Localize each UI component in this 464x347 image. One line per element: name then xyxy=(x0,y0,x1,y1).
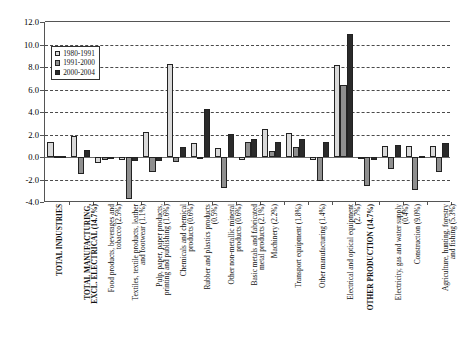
y-axis-tick-label: 2.0 xyxy=(0,131,39,139)
bar xyxy=(167,64,173,157)
bar-group xyxy=(310,22,329,201)
x-axis-label-line: Electrical and optical equipment xyxy=(347,204,354,344)
bar xyxy=(78,157,84,174)
bar-series-container xyxy=(45,22,450,201)
bar xyxy=(419,156,425,158)
legend-swatch-icon xyxy=(55,60,60,65)
x-axis-label: Electrical and optical equipment(2.7%) xyxy=(347,204,361,344)
x-axis-label-line: EXCL. ELECTRICAL (14.7%) xyxy=(92,204,99,344)
bar-group xyxy=(286,22,305,201)
x-axis-label: Rubber and plastics products(0.5%) xyxy=(204,204,218,344)
bar xyxy=(119,157,125,160)
x-axis-label: Electricity, gas and water supply(0.4%) xyxy=(395,204,409,344)
y-axis-tick-label: 0.0 xyxy=(0,153,39,161)
bar-group xyxy=(334,22,353,201)
bar xyxy=(269,151,275,157)
plot-area xyxy=(44,22,450,202)
bar xyxy=(132,157,138,161)
bar xyxy=(395,145,401,157)
bar xyxy=(340,85,346,157)
bar xyxy=(293,147,299,157)
bar-group xyxy=(167,22,186,201)
x-axis-label-line: Machinery (2.2%) xyxy=(271,204,278,344)
bar xyxy=(286,133,292,157)
bar xyxy=(347,34,353,157)
y-axis-tick-label: -4.0 xyxy=(0,198,39,206)
bar xyxy=(221,157,227,188)
chart-legend: 1980-1991 1991-2000 2000-2004 xyxy=(51,46,100,80)
x-axis-label: Textiles, textile products, leatherand f… xyxy=(132,204,146,344)
legend-label: 1980-1991 xyxy=(63,50,95,57)
bar xyxy=(156,157,162,161)
y-axis: -4.0-2.00.02.04.06.08.010.012.0 xyxy=(0,22,44,202)
x-axis-label-line: metal products (2.1%) xyxy=(259,204,266,344)
bar xyxy=(251,139,257,157)
bar xyxy=(71,136,77,157)
x-axis-label-line: and footwear (1.1%) xyxy=(139,204,146,344)
x-axis-label: Chemicals and chemicalproducts (0.6%) xyxy=(180,204,194,344)
x-axis-label: Food products, beverages andtobacco (2.5… xyxy=(108,204,122,344)
legend-item-1991-2000: 1991-2000 xyxy=(55,59,95,68)
x-axis-label-line: TOTAL INDUSTRIES xyxy=(56,204,63,344)
bar-group xyxy=(358,22,377,201)
bar-group xyxy=(262,22,281,201)
x-axis-label: OTHER PRODUCTION (14.7%) xyxy=(367,204,381,344)
bar xyxy=(436,157,442,172)
x-axis-label-line: (2.7%) xyxy=(354,204,361,344)
bar xyxy=(197,157,203,159)
bar xyxy=(262,129,268,157)
x-axis-label: Basic metals and fabricatedmetal product… xyxy=(251,204,265,344)
bar xyxy=(406,146,412,157)
x-axis-label: Transport equipment (1.8%) xyxy=(295,204,309,344)
bar-group xyxy=(119,22,138,201)
bar xyxy=(54,156,60,158)
x-axis-label-line: (0.4%) xyxy=(402,204,409,344)
x-axis-label: Pulp, paper, paper products,printing and… xyxy=(156,204,170,344)
x-axis-label: Construction (9.0%) xyxy=(414,204,428,344)
y-axis-tick-label: 10.0 xyxy=(0,41,39,49)
legend-item-1980-1991: 1980-1991 xyxy=(55,50,95,59)
x-axis-label: Machinery (2.2%) xyxy=(271,204,285,344)
bar xyxy=(382,146,388,157)
bar-group xyxy=(215,22,234,201)
bar xyxy=(60,156,66,158)
bar xyxy=(388,157,394,169)
bar xyxy=(149,157,155,172)
bar xyxy=(430,146,436,157)
y-axis-tick-label: -2.0 xyxy=(0,176,39,184)
bar xyxy=(215,148,221,157)
legend-item-2000-2004: 2000-2004 xyxy=(55,68,95,77)
bar-group xyxy=(239,22,258,201)
bar-group xyxy=(406,22,425,201)
y-axis-tick-label: 6.0 xyxy=(0,86,39,94)
bar xyxy=(95,157,101,163)
bar-group xyxy=(382,22,401,201)
x-axis-label-line: Transport equipment (1.8%) xyxy=(295,204,302,344)
x-axis-label-line: products (0.6%) xyxy=(187,204,194,344)
bar xyxy=(245,142,251,157)
x-axis-label: TOTAL INDUSTRIES xyxy=(56,204,70,344)
bar xyxy=(275,142,281,157)
bar xyxy=(191,143,197,157)
bar xyxy=(173,157,179,162)
bar xyxy=(317,157,323,181)
bar xyxy=(126,157,132,199)
x-axis-label-line: printing and publishing (1.6%) xyxy=(163,204,170,344)
legend-label: 2000-2004 xyxy=(63,69,95,76)
x-axis-labels: TOTAL INDUSTRIESTOTAL MANUFACTURING,EXCL… xyxy=(44,204,450,347)
bar xyxy=(143,132,149,157)
y-axis-tick-mark xyxy=(40,202,44,203)
bar xyxy=(47,142,53,157)
chart-figure: -4.0-2.00.02.04.06.08.010.012.0 1980-199… xyxy=(0,0,464,347)
bar xyxy=(102,157,108,160)
bar xyxy=(180,147,186,157)
x-axis-label: Other manufacturing (1.4%) xyxy=(319,204,333,344)
bar xyxy=(364,157,370,186)
bar xyxy=(299,139,305,157)
bar xyxy=(204,109,210,157)
x-axis-label: TOTAL MANUFACTURING,EXCL. ELECTRICAL (14… xyxy=(84,204,98,344)
bar xyxy=(323,142,329,157)
bar-group xyxy=(430,22,449,201)
bar xyxy=(412,157,418,190)
legend-label: 1991-2000 xyxy=(63,59,95,66)
